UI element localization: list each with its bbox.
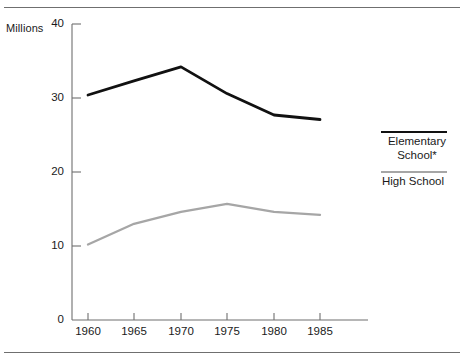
dark-line-swatch-icon [381, 131, 447, 133]
y-tick-label-30: 30 [38, 91, 64, 103]
series-line-high-school [88, 204, 320, 245]
x-tick-label-1985: 1985 [300, 325, 340, 337]
x-tick-label-1960: 1960 [68, 325, 108, 337]
series-line-elementary-school [88, 67, 320, 120]
x-tick-label-1980: 1980 [254, 325, 294, 337]
gray-line-swatch-icon [381, 171, 447, 173]
y-tick-label-40: 40 [38, 17, 64, 29]
x-axis-ticks [88, 313, 320, 320]
y-tick-label-20: 20 [38, 165, 64, 177]
legend-entry-high-school: High School [381, 171, 459, 189]
x-tick-label-1965: 1965 [114, 325, 154, 337]
y-axis-ticks [72, 24, 81, 246]
legend-label-elementary-line1: Elementary [381, 135, 453, 149]
chart-legend: Elementary School* High School [381, 131, 459, 198]
chart-figure: Millions 40 30 20 10 0 1960 [0, 0, 464, 364]
legend-label-high-school: High School [381, 175, 454, 189]
x-tick-label-1975: 1975 [207, 325, 247, 337]
legend-label-elementary-line2: School* [381, 149, 453, 163]
y-tick-label-10: 10 [38, 239, 64, 251]
y-tick-label-0: 0 [38, 313, 64, 325]
x-tick-label-1970: 1970 [161, 325, 201, 337]
legend-entry-elementary-school: Elementary School* [381, 131, 459, 162]
